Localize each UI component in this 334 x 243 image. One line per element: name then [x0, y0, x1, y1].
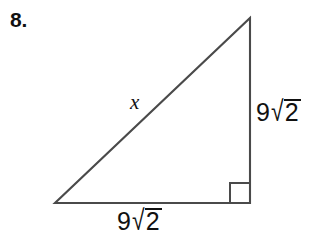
right-leg-radical: √2	[271, 99, 299, 126]
geometry-problem-figure: 8. x 9√2 9√2	[0, 0, 334, 243]
radical-sign-icon: √	[132, 206, 145, 235]
triangle-outline	[55, 18, 250, 203]
right-leg-radicand: 2	[285, 99, 299, 125]
base-radicand: 2	[146, 208, 160, 234]
right-leg-coefficient: 9	[256, 98, 270, 126]
problem-number: 8.	[10, 9, 27, 30]
base-radical: √2	[132, 208, 160, 235]
hypotenuse-label: x	[130, 92, 139, 113]
radical-sign-icon: √	[271, 97, 284, 126]
base-coefficient: 9	[117, 207, 131, 235]
right-leg-label: 9√2	[256, 99, 299, 126]
base-label: 9√2	[117, 208, 160, 235]
